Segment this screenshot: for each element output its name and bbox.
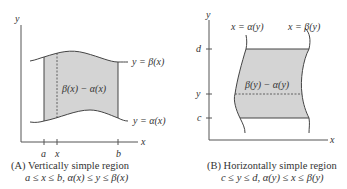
left-curve-label: x = α(y): [230, 21, 264, 33]
caption-a: (A) Vertically simple region a ≤ x ≤ b, …: [11, 160, 129, 184]
panel-a: y x y = β(x) y = α(x) β(x) − α(x) a x b: [14, 13, 166, 159]
caption-b: (B) Horizontally simple region c ≤ y ≤ d…: [207, 160, 337, 184]
tick-label-y: y: [195, 88, 201, 99]
caption-a-condition: a ≤ x ≤ b, α(x) ≤ y ≤ β(x): [11, 172, 129, 184]
right-curve-label: x = β(y): [287, 21, 321, 33]
y-axis-label-a: y: [14, 13, 20, 24]
caption-b-condition: c ≤ y ≤ d, α(y) ≤ x ≤ β(y): [207, 172, 337, 184]
x-axis-label-b: x: [329, 134, 335, 145]
upper-curve-label: y = β(x): [131, 56, 165, 68]
caption-a-title: (A) Vertically simple region: [11, 160, 129, 171]
tick-label-c: c: [197, 112, 202, 123]
tick-label-a: a: [41, 148, 46, 159]
panel-b: y x x = α(y) x = β(y) β(y) − α(y) d y c: [195, 9, 335, 145]
y-axis-label-b: y: [205, 9, 211, 20]
x-axis-label-a: x: [140, 136, 146, 147]
tick-label-b: b: [116, 148, 121, 159]
tick-label-d: d: [196, 43, 202, 54]
caption-b-title: (B) Horizontally simple region: [207, 160, 337, 171]
lower-curve-label: y = α(x): [132, 115, 166, 127]
tick-label-x: x: [54, 148, 60, 159]
region-label-b: β(y) − α(y): [244, 79, 290, 91]
region-label-a: β(x) − α(x): [61, 83, 107, 95]
